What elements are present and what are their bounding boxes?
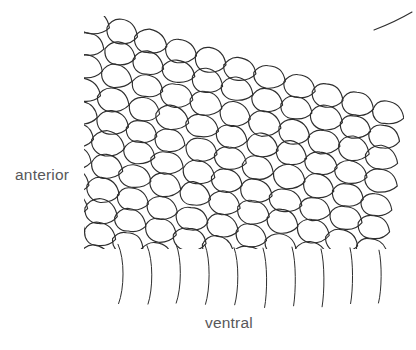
- label-ventral: ventral: [205, 315, 253, 331]
- figure-page: anterior ventral: [0, 0, 416, 350]
- label-anterior: anterior: [15, 167, 69, 183]
